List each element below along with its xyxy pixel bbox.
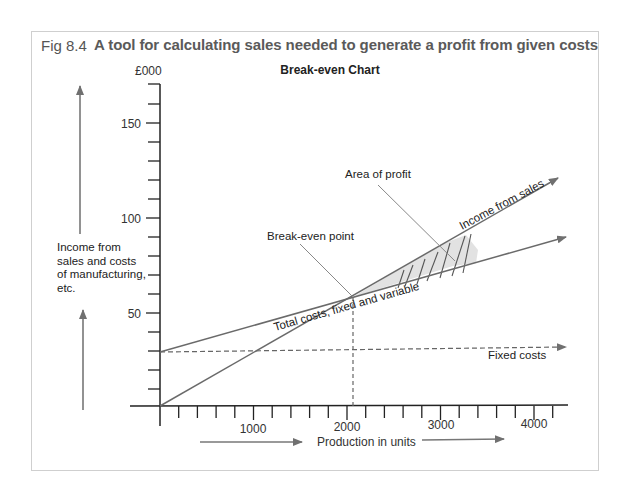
- x-tick-3000: 3000: [428, 418, 455, 432]
- break-even-label: Break-even point: [267, 230, 355, 242]
- x-tick-1000: 1000: [240, 422, 267, 436]
- break-even-leader: [300, 244, 352, 296]
- x-tick-2000: 2000: [334, 420, 361, 434]
- chart-title: Break-even Chart: [280, 63, 379, 77]
- profit-leader: [378, 185, 455, 261]
- area-of-profit-label: Area of profit: [345, 168, 412, 180]
- x-axis: [130, 405, 568, 406]
- y-axis-label: Income from sales and costs of manufactu…: [57, 241, 147, 295]
- y-tick-150: 150: [121, 117, 141, 131]
- y-unit-label: £000: [135, 64, 162, 78]
- x-axis-label: Production in units: [317, 435, 416, 449]
- y-tick-100: 100: [121, 212, 141, 226]
- total-costs-label: Total costs, fixed and variable: [272, 280, 420, 333]
- y-tick-50: 50: [128, 307, 142, 321]
- x-arrow-right: [422, 439, 504, 440]
- x-tick-4000: 4000: [521, 417, 548, 431]
- income-line-label: Income from sales: [457, 177, 546, 232]
- fixed-costs-label: Fixed costs: [488, 349, 546, 361]
- x-axis-ticks: [179, 406, 553, 420]
- y-axis-ticks: [146, 84, 160, 389]
